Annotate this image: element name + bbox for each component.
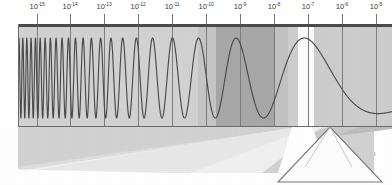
axis-tick-label: 10-5 xyxy=(370,2,382,11)
wave-plot-area xyxy=(18,26,392,127)
axis-tick-labels: 10-15 10-14 10-13 10-12 10-11 10-10 10-9… xyxy=(0,0,392,20)
tick-exponent: -7 xyxy=(310,1,314,7)
plot-frame-left xyxy=(18,24,19,128)
axis-tick-label: 10-7 xyxy=(302,2,314,11)
axis-tick-label: 10-9 xyxy=(234,2,246,11)
tick-exponent: -14 xyxy=(71,1,78,7)
axis-tick-label: 10-14 xyxy=(63,2,78,11)
chirped-wave-curve xyxy=(18,26,392,127)
edge-speck xyxy=(374,152,376,156)
axis-tick-label: 10-10 xyxy=(199,2,214,11)
tick-exponent: -6 xyxy=(344,1,348,7)
axis-tick-label: 10-8 xyxy=(268,2,280,11)
tick-exponent: -13 xyxy=(105,1,112,7)
axis-tick-label: 10-15 xyxy=(30,2,45,11)
tick-exponent: -10 xyxy=(207,1,214,7)
tick-exponent: -5 xyxy=(378,1,382,7)
tick-exponent: -11 xyxy=(173,1,179,7)
plot-frame-top xyxy=(18,24,392,27)
prism-illustration xyxy=(0,127,392,185)
tick-exponent: -8 xyxy=(276,1,280,7)
tick-exponent: -9 xyxy=(242,1,246,7)
tick-exponent: -12 xyxy=(139,1,146,7)
tick-exponent: -15 xyxy=(38,1,45,7)
axis-tick-label: 10-6 xyxy=(336,2,348,11)
axis-tick-label: 10-13 xyxy=(97,2,112,11)
spectrum-diagram: 10-15 10-14 10-13 10-12 10-11 10-10 10-9… xyxy=(0,0,392,185)
axis-tick-label: 10-11 xyxy=(165,2,180,11)
axis-tick-label: 10-12 xyxy=(131,2,146,11)
